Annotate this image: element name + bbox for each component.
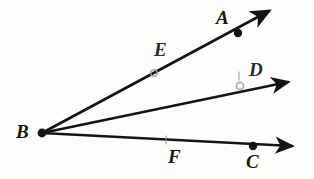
tick-marks-group [166, 72, 239, 145]
point-dots-group [38, 29, 258, 150]
point-dot-a [234, 29, 242, 37]
point-label-c: C [246, 152, 259, 171]
point-dot-b [38, 129, 47, 138]
point-label-a: A [216, 8, 229, 27]
point-label-f: F [168, 147, 181, 166]
point-dot-d [236, 82, 243, 89]
point-label-d: D [249, 60, 263, 79]
point-label-e: E [154, 40, 167, 59]
geometry-figure: ABCDEF [0, 0, 314, 179]
figure-canvas [0, 0, 314, 179]
ray-BA [42, 11, 269, 133]
point-dot-c [249, 142, 257, 150]
ray-BD [42, 82, 288, 133]
point-label-b: B [16, 122, 29, 141]
